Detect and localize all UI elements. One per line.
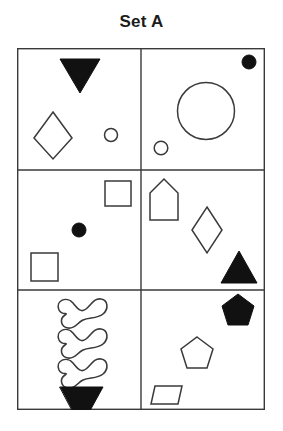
figure-title: Set A — [0, 12, 283, 32]
squiggle-outline-1-icon — [58, 299, 107, 328]
diamond-outline-icon — [192, 207, 222, 253]
cell-top-left — [34, 59, 118, 159]
triangle-down-filled-icon — [60, 59, 100, 93]
grid-frame — [18, 49, 265, 410]
cell-middle-right — [150, 179, 257, 283]
cell-bottom-right — [151, 294, 254, 404]
circle-outline-small-icon — [105, 129, 118, 142]
shape-grid — [17, 48, 265, 410]
circle-filled-small-icon — [72, 223, 86, 237]
triangle-up-filled-icon — [221, 251, 257, 283]
shape-grid-svg — [17, 48, 265, 410]
squiggle-outline-2-icon — [58, 329, 107, 358]
circle-outline-large-icon — [178, 83, 235, 140]
trapezoid-outline-icon — [151, 386, 182, 404]
cell-middle-left — [31, 181, 131, 281]
circle-outline-small-icon — [154, 141, 168, 155]
squiggle-outline-3-icon — [58, 359, 107, 388]
shape-matrix-figure: Set A — [0, 0, 283, 431]
house-outline-icon — [150, 179, 178, 220]
triangle-down-filled-icon — [60, 387, 103, 410]
cell-top-right — [154, 55, 256, 155]
square-outline-upper-icon — [105, 181, 131, 206]
square-outline-lower-icon — [31, 253, 58, 281]
circle-filled-small-icon — [242, 55, 256, 69]
cell-bottom-left — [58, 299, 107, 410]
pentagon-outline-icon — [181, 337, 213, 368]
diamond-outline-icon — [34, 112, 72, 159]
pentagon-filled-icon — [222, 294, 254, 325]
